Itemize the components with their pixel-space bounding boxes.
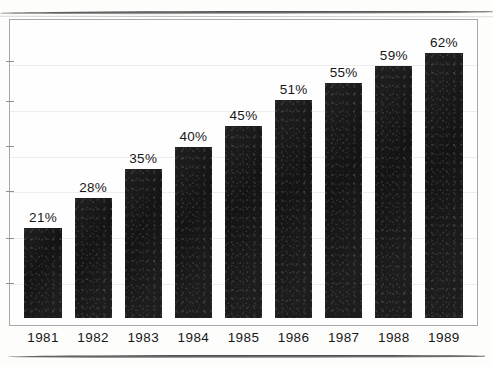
bar-1982[interactable]	[75, 198, 112, 318]
bar-1985[interactable]	[225, 126, 262, 318]
x-axis-label-1989: 1989	[419, 330, 469, 345]
x-axis-label-1984: 1984	[168, 330, 218, 345]
bar-1988[interactable]	[375, 66, 412, 318]
x-axis-label-1983: 1983	[118, 330, 168, 345]
bar-group-1983[interactable]: 35%	[125, 19, 162, 326]
bar-group-1985[interactable]: 45%	[225, 19, 262, 326]
x-axis-labels: 198119821983198419851986198719881989	[9, 330, 478, 350]
bar-value-label-1989: 62%	[430, 35, 458, 50]
bar-1989[interactable]	[425, 53, 462, 318]
scan-top-edge-artifact	[0, 10, 493, 14]
bar-group-1987[interactable]: 55%	[325, 19, 362, 326]
bar-value-label-1984: 40%	[179, 129, 207, 144]
x-axis-label-1988: 1988	[369, 330, 419, 345]
bar-group-1984[interactable]: 40%	[175, 19, 212, 326]
x-axis-label-1981: 1981	[18, 330, 68, 345]
bar-value-label-1982: 28%	[79, 180, 107, 195]
bar-value-label-1987: 55%	[330, 65, 358, 80]
x-axis-label-1987: 1987	[319, 330, 369, 345]
bar-value-label-1986: 51%	[280, 82, 308, 97]
bar-group-1989[interactable]: 62%	[425, 19, 462, 326]
bar-value-label-1983: 35%	[129, 151, 157, 166]
bar-group-1981[interactable]: 21%	[24, 19, 61, 326]
bar-group-1988[interactable]: 59%	[375, 19, 412, 326]
bar-series-container: 21%28%35%40%45%51%55%59%62%	[9, 19, 478, 326]
bar-1981[interactable]	[24, 228, 61, 318]
bar-1983[interactable]	[125, 169, 162, 319]
bar-value-label-1988: 59%	[380, 48, 408, 63]
bar-1986[interactable]	[275, 100, 312, 318]
scan-top-edge-shadow	[0, 16, 493, 18]
bar-group-1986[interactable]: 51%	[275, 19, 312, 326]
bar-1987[interactable]	[325, 83, 362, 318]
bar-group-1982[interactable]: 28%	[75, 19, 112, 326]
page-bottom-rule-artifact	[8, 355, 485, 358]
x-axis-label-1986: 1986	[269, 330, 319, 345]
bar-1984[interactable]	[175, 147, 212, 318]
x-axis-label-1985: 1985	[218, 330, 268, 345]
bar-value-label-1981: 21%	[29, 210, 57, 225]
bar-value-label-1985: 45%	[230, 108, 258, 123]
x-axis-label-1982: 1982	[68, 330, 118, 345]
